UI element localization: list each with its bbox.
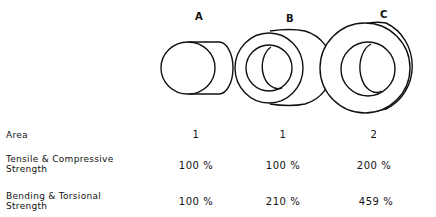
tensile-value-a: 100 % [166,160,226,171]
row-label-area: Area [6,130,28,140]
column-header-c: C [380,9,387,20]
area-value-c: 2 [344,129,404,140]
shape-b-hollow-tube [235,30,332,106]
row-label-tensile-line2: Strength [6,164,47,174]
tensile-value-b: 100 % [253,160,313,171]
column-header-b: B [286,13,294,24]
shape-a-solid-cylinder [161,42,233,94]
cross-section-diagram [0,0,436,130]
row-label-bending-line1: Bending & Torsional [6,191,101,201]
column-header-a: A [195,11,203,22]
tensile-value-c: 200 % [344,160,404,171]
row-label-tensile-line1: Tensile & Compressive [6,154,114,164]
row-label-bending-line2: Strength [6,201,47,211]
bending-value-a: 100 % [166,196,226,207]
bending-value-b: 210 % [253,196,313,207]
bending-value-c: 459 % [346,196,406,207]
area-value-a: 1 [166,129,226,140]
area-value-b: 1 [253,129,313,140]
shape-c-hollow-tube [320,22,412,113]
